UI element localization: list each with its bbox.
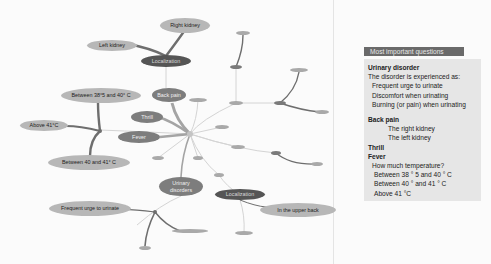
leaf-node[interactable] [193,156,203,160]
panel-body: Urinary disorder The disorder is experie… [364,59,481,201]
panel-line: Above 41 °C [368,189,478,198]
node-upper-back[interactable]: In the upper back [260,203,336,217]
node-right-kidney[interactable]: Right kidney [160,18,210,33]
panel-line: Between 40 ° and 41 ° C [368,179,478,188]
leaf-node[interactable] [230,65,242,69]
leaf-node[interactable] [236,31,250,35]
node-localization-top[interactable]: Localization [141,55,191,67]
leaf-node[interactable] [139,246,151,250]
mind-map-canvas: Right kidney Left kidney Localization Ba… [0,0,491,264]
section-title-urinary: Urinary disorder [368,63,478,72]
node-urinary-disorders[interactable]: Urinary disorders [159,177,203,196]
leaf-node[interactable] [215,125,229,129]
node-back-pain[interactable]: Back pain [152,88,186,102]
panel-line: Between 38 ° 5 and 40 ° C [368,170,478,179]
panel-line: Burning (or pain) when urinating [368,100,478,109]
section-title-back-pain: Back pain [368,115,478,124]
leaf-node[interactable] [189,98,207,102]
leaf-node[interactable] [311,162,323,166]
leaf-node[interactable] [290,68,308,72]
panel-line: How much temperature? [368,161,478,170]
leaf-node[interactable] [152,156,164,160]
leaf-node[interactable] [231,145,245,149]
section-title-fever: Fever [368,152,478,161]
leaf-node[interactable] [274,101,286,105]
node-above-41[interactable]: Above 41°C [20,120,68,131]
panel-header: Most important questions [364,47,464,56]
section-title-thrill: Thrill [368,143,478,152]
node-left-kidney[interactable]: Left kidney [87,40,137,51]
leaf-node[interactable] [172,229,208,233]
leaf-node[interactable] [315,110,329,114]
panel-line: The disorder is experienced as: [368,72,478,81]
node-localization-bottom[interactable]: Localization [215,189,265,200]
panel-line: The right kidney [368,124,478,133]
node-between-40-41[interactable]: Between 40 and 41° C [48,155,130,170]
node-frequent-urge[interactable]: Frequent urge to urinate [49,201,131,216]
leaf-node[interactable] [214,173,224,177]
questions-panel: Most important questions Urinary disorde… [364,47,481,201]
node-between-38-40[interactable]: Between 38°5 and 40° C [61,88,141,103]
panel-line: The left kidney [368,133,478,142]
node-thrill[interactable]: Thrill [131,111,163,123]
node-fever[interactable]: Fever [118,131,160,143]
panel-line: Discomfort when urinating [368,91,478,100]
leaf-node[interactable] [271,151,281,155]
leaf-node[interactable] [235,231,253,235]
leaf-node[interactable] [229,101,243,105]
panel-line: Frequent urge to urinate [368,81,478,90]
